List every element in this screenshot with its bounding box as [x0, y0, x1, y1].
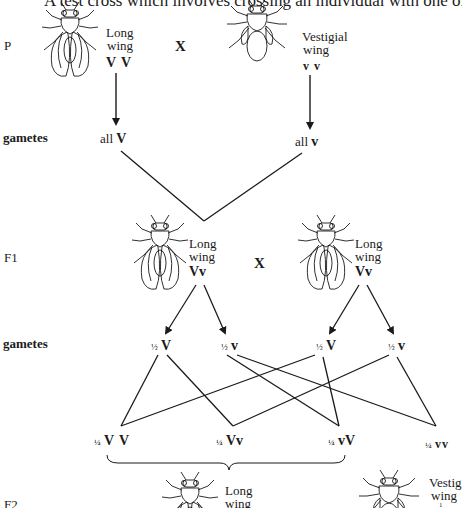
f2-genotype: ¼ vv [425, 436, 449, 452]
f1-genotype: Vv [189, 264, 206, 280]
cross-diagram-lines [0, 0, 462, 508]
row-label-gametes: gametes [3, 130, 48, 146]
f1-gamete: ½ v [221, 338, 238, 354]
intro-text: A test cross which involves crossing an … [44, 0, 462, 11]
long-wing-fly-icon [42, 2, 98, 76]
parent-trait-label: Long wing [106, 26, 133, 52]
long-wing-fly-icon [132, 215, 188, 289]
parent-genotype: V V [106, 55, 132, 71]
vestigial-wing-fly-icon [359, 470, 419, 508]
f2-genotype: ¼ V V [94, 433, 130, 449]
parent-trait-label: Vestigial wing [302, 30, 348, 56]
cross-symbol: X [175, 38, 186, 55]
f1-gamete: ½ V [151, 338, 171, 354]
f1-trait-label: Long wing [355, 237, 382, 263]
f2-trait-label: Vestig wing 1 [429, 476, 462, 508]
cross-symbol: X [254, 255, 265, 272]
parent-gamete: all v [295, 134, 318, 150]
f1-genotype: Vv [355, 264, 372, 280]
long-wing-fly-icon [162, 472, 218, 508]
row-label-p: P [4, 38, 11, 54]
f2-genotype: ¼ Vv [216, 433, 243, 449]
f1-gamete: ½ v [388, 338, 405, 354]
f1-gamete: ½ V [316, 338, 336, 354]
parent-genotype: v v [303, 59, 321, 74]
row-label-f2: F2 [4, 497, 18, 508]
f2-genotype: ¼ vV [328, 433, 355, 449]
row-label-gametes: gametes [3, 336, 48, 352]
long-wing-group-brace [107, 455, 345, 470]
parent-gamete: all V [100, 131, 126, 147]
row-label-f1: F1 [4, 250, 18, 266]
long-wing-fly-icon [298, 215, 354, 289]
f1-trait-label: Long wing [189, 237, 216, 263]
f2-trait-label: Long wing [225, 484, 252, 508]
